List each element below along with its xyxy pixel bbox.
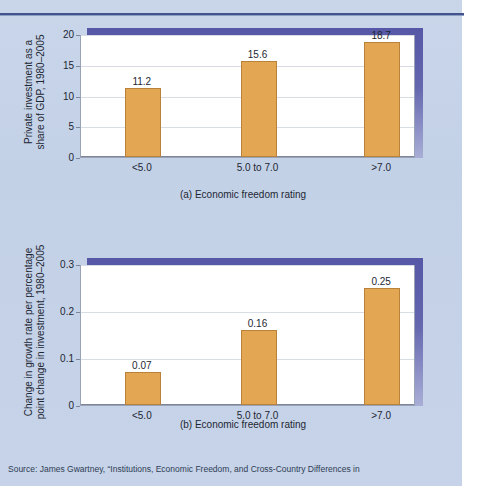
y-tick-mark [76, 158, 80, 159]
panel-b-plot-area [81, 266, 414, 405]
y-tick-mark [76, 66, 80, 67]
y-tick-mark [76, 35, 80, 36]
bar-value-label: 0.07 [117, 360, 167, 371]
panel-a-y-axis-title: Private investment as a share of GDP, 19… [23, 28, 47, 156]
x-tick-label: <5.0 [107, 162, 177, 173]
y-tick-mark [76, 359, 80, 360]
y-tick-label: 0 [46, 152, 74, 163]
bar [241, 61, 277, 157]
bar-value-label: 15.6 [233, 49, 283, 60]
y-tick-label: 0.3 [46, 259, 74, 270]
y-tick-label: 5 [46, 121, 74, 132]
panel-b-y-axis-title: Change in growth rate per percentage poi… [23, 243, 47, 421]
y-tick-label: 15 [46, 60, 74, 71]
source-note: Source: James Gwartney, “Institutions, E… [8, 464, 458, 475]
bar [364, 42, 400, 157]
panel-b-caption: (b) Economic freedom rating [0, 419, 486, 430]
y-tick-label: 10 [46, 91, 74, 102]
bar [125, 88, 161, 157]
y-tick-mark [76, 406, 80, 407]
bar-value-label: 18.7 [356, 30, 406, 41]
bar [364, 288, 400, 406]
chart-panel-a [80, 28, 422, 158]
y-tick-mark [76, 265, 80, 266]
y-tick-mark [76, 312, 80, 313]
gridline [81, 265, 414, 266]
x-tick-label: >7.0 [346, 162, 416, 173]
top-divider-rule-soft [0, 15, 464, 16]
bar-value-label: 11.2 [117, 76, 167, 87]
y-tick-label: 0.1 [46, 353, 74, 364]
y-tick-label: 0.2 [46, 306, 74, 317]
bar [241, 330, 277, 405]
y-tick-label: 20 [46, 29, 74, 40]
bar-value-label: 0.16 [233, 318, 283, 329]
y-tick-label: 0 [46, 400, 74, 411]
y-tick-mark [76, 127, 80, 128]
panel-a-caption: (a) Economic freedom rating [0, 189, 486, 200]
bar [125, 372, 161, 405]
y-tick-mark [76, 97, 80, 98]
bar-value-label: 0.25 [356, 276, 406, 287]
x-tick-label: 5.0 to 7.0 [223, 162, 293, 173]
figure-page: Private investment as a share of GDP, 19… [0, 0, 486, 486]
